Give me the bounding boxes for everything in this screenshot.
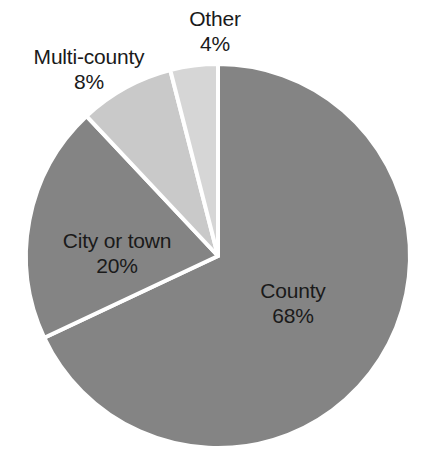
pie-label-other-value: 4% [155,31,275,56]
pie-label-multi-county-value: 8% [8,69,170,94]
pie-label-county-value: 68% [236,303,350,328]
pie-label-city-or-town: City or town 20% [38,228,196,278]
pie-label-other-name: Other [155,6,275,31]
pie-label-other: Other 4% [155,6,275,56]
pie-label-multi-county: Multi-county 8% [8,44,170,94]
pie-label-multi-county-name: Multi-county [8,44,170,69]
pie-chart: Other 4% Multi-county 8% City or town 20… [0,0,432,467]
pie-label-city-or-town-value: 20% [38,253,196,278]
pie-label-city-or-town-name: City or town [38,228,196,253]
pie-label-county: County 68% [236,278,350,328]
pie-label-county-name: County [236,278,350,303]
